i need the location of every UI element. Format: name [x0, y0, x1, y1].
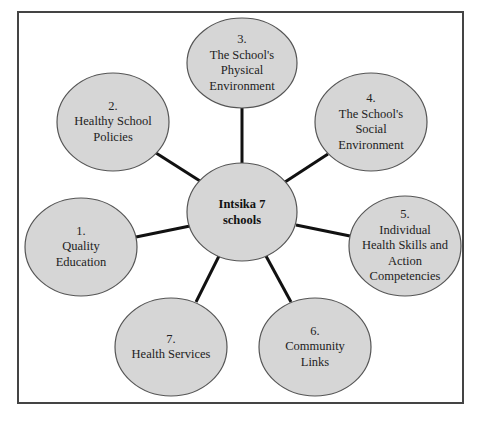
node-n7: 7.Health Services: [115, 298, 227, 396]
edge-hub-n6: [266, 256, 291, 302]
node-n6: 6.CommunityLinks: [259, 298, 371, 396]
node-number: 1.: [76, 224, 85, 240]
node-number: 5.: [400, 207, 409, 223]
node-n3: 3.The School'sPhysicalEnvironment: [187, 18, 297, 108]
edge-hub-n5: [296, 225, 350, 236]
node-n1: 1.QualityEducation: [25, 198, 137, 296]
node-n2: 2.Healthy SchoolPolicies: [57, 73, 169, 171]
node-label-line: The School's: [339, 107, 403, 123]
node-label-line: Physical: [221, 63, 263, 79]
node-n4: 4.The School'sSocialEnvironment: [315, 73, 427, 171]
node-number: 2.: [108, 99, 117, 115]
node-number: 6.: [310, 324, 319, 340]
node-label-line: Social: [355, 122, 386, 138]
node-label-line: Health Skills and: [362, 238, 448, 254]
node-label-line: Intsika 7: [219, 196, 266, 212]
node-label-line: Education: [56, 255, 107, 271]
node-number: 4.: [366, 91, 375, 107]
node-label-line: Environment: [338, 138, 403, 154]
node-label-line: schools: [223, 212, 261, 228]
node-label-line: Action: [388, 254, 422, 270]
node-label-line: Policies: [93, 130, 133, 146]
node-label-line: Health Services: [132, 347, 211, 363]
node-label-line: Competencies: [370, 269, 441, 285]
edge-hub-n1: [136, 226, 190, 237]
node-label-line: Healthy School: [74, 114, 151, 130]
node-label-line: Links: [301, 355, 329, 371]
node-number: 7.: [166, 332, 175, 348]
node-label-line: Community: [285, 339, 345, 355]
node-label-line: Environment: [209, 79, 274, 95]
node-number: 3.: [237, 32, 246, 48]
node-label-line: Quality: [62, 239, 100, 255]
node-n5: 5.IndividualHealth Skills andActionCompe…: [349, 196, 461, 296]
node-label-line: Individual: [379, 223, 430, 239]
hub-node: Intsika 7schools: [187, 163, 297, 261]
node-label-line: The School's: [210, 48, 274, 64]
edge-hub-n7: [196, 256, 219, 302]
